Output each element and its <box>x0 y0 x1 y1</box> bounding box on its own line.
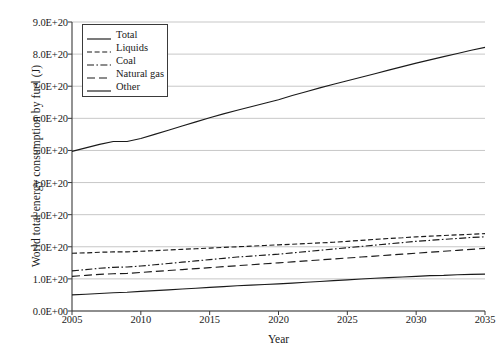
plot-area <box>0 0 496 355</box>
legend-label: Other <box>116 81 140 92</box>
legend-item-liquids: Liquids <box>87 41 162 54</box>
series-line-liquids <box>72 234 485 254</box>
energy-consumption-line-chart: World total energy consumption by fuel (… <box>0 0 496 355</box>
legend-line-sample <box>87 30 111 40</box>
legend-item-coal: Coal <box>87 54 162 67</box>
series-line-coal <box>72 237 485 271</box>
legend-label: Coal <box>116 55 136 66</box>
legend-line-sample <box>87 56 111 66</box>
legend-line-sample <box>87 43 111 53</box>
legend-label: Natural gas <box>116 68 164 79</box>
legend-line-sample <box>87 82 111 92</box>
chart-legend: TotalLiquidsCoalNatural gasOther <box>82 24 168 97</box>
legend-item-total: Total <box>87 28 162 41</box>
legend-line-sample <box>87 69 111 79</box>
legend-label: Total <box>116 29 137 40</box>
legend-item-other: Other <box>87 80 162 93</box>
legend-item-natural-gas: Natural gas <box>87 67 162 80</box>
series-line-natural-gas <box>72 248 485 276</box>
series-line-other <box>72 274 485 295</box>
legend-label: Liquids <box>116 42 148 53</box>
